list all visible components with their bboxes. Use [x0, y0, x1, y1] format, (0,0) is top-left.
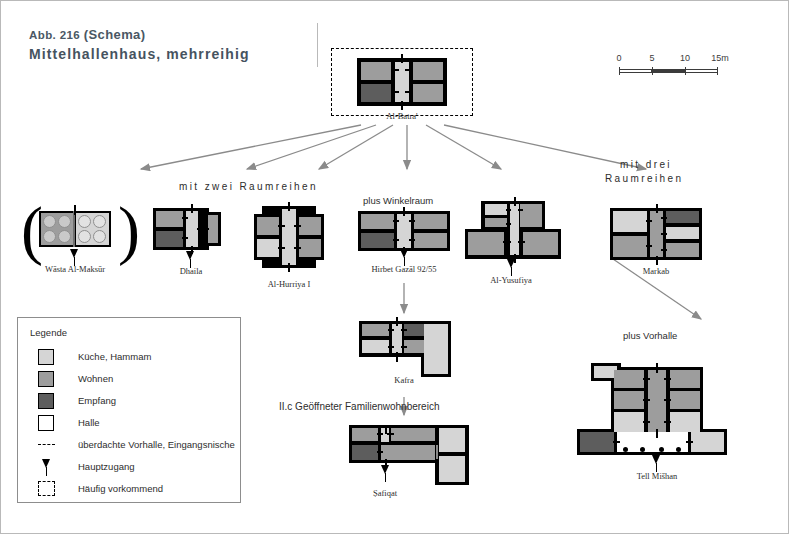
- plan-al-batra: [357, 58, 447, 106]
- plan-label-markab: Markab: [643, 266, 669, 276]
- scale-tick-3: 15m: [711, 53, 729, 63]
- title-divider: [317, 23, 318, 67]
- figure-page: Abb. 216 (Schema) Mittelhallenhaus, mehr…: [0, 0, 789, 534]
- paren-close: ): [118, 197, 140, 263]
- plan-label-yusufiya: Al-Yusufiya: [490, 275, 532, 285]
- plan-markab: [610, 208, 702, 260]
- scale-tick-2: 10: [680, 53, 690, 63]
- group-label-three-rows-1: mit drei: [620, 159, 672, 170]
- legend-label-kueche: Küche, Hammam: [78, 351, 151, 362]
- scale-tick-1: 5: [649, 53, 654, 63]
- page-title: Mittelhallenhaus, mehrreihig: [29, 46, 314, 62]
- plan-safiqat: [349, 425, 469, 485]
- plan-dhaila: [153, 208, 221, 250]
- legend-label-hauptzugang: Hauptzugang: [78, 461, 135, 472]
- plan-label-kafra: Kafra: [394, 375, 413, 385]
- legend-swatch-empfang: [38, 393, 54, 409]
- label-plus-vorhalle: plus Vorhalle: [623, 330, 677, 341]
- plan-kafra: [359, 317, 451, 373]
- label-plus-winkelraum: plus Winkelraum: [363, 195, 433, 206]
- plan-tell-mishan: [577, 363, 727, 455]
- scale-tick-0: 0: [616, 53, 621, 63]
- legend-swatch-halle: [38, 415, 54, 431]
- dashed-line-icon: [38, 444, 55, 445]
- scale-bar: 0 5 10 15m: [619, 53, 729, 76]
- legend-swatch-wohnen: [38, 371, 54, 387]
- plan-label-al-batra: Al-Batra': [386, 111, 417, 121]
- figure-number-line: Abb. 216 (Schema): [29, 27, 314, 42]
- plan-label-mishan: Tell Mišhan: [637, 471, 678, 481]
- group-label-three-rows-2: Raumreihen: [605, 173, 683, 184]
- plan-al-yusufiya: [465, 201, 561, 259]
- legend-title: Legende: [30, 327, 67, 338]
- figure-title-block: Abb. 216 (Schema) Mittelhallenhaus, mehr…: [29, 27, 314, 62]
- plan-label-dhaila: Dhaila: [180, 266, 203, 276]
- plan-hirbet-gazal: [358, 211, 450, 251]
- legend-panel: Legende Küche, Hammam Wohnen Empfang Hal…: [17, 317, 241, 503]
- dashed-frame-icon: [38, 481, 55, 496]
- figure-number: Abb. 216: [29, 29, 80, 41]
- plan-label-safiqat: Ṣafiqat: [373, 488, 397, 498]
- plan-label-wasta: Wāsta Al-Maksūr: [45, 264, 105, 274]
- group-label-two-rows: mit zwei Raumreihen: [179, 181, 318, 192]
- plan-al-hurriya-i: [254, 206, 324, 268]
- legend-label-wohnen: Wohnen: [78, 373, 113, 384]
- plan-label-gazal: Hirbet Gazāl 92/55: [371, 264, 436, 274]
- legend-swatch-kueche: [38, 349, 54, 365]
- plan-wasta-al-maksur: [39, 211, 111, 247]
- figure-schema-word: (Schema): [84, 27, 146, 42]
- legend-label-haeufig: Häufig vorkommend: [78, 483, 163, 494]
- legend-label-halle: Halle: [78, 417, 100, 428]
- plan-label-hurriya: Al-Hurriya I: [268, 279, 311, 289]
- scale-bar-graphic: [619, 67, 729, 76]
- legend-label-empfang: Empfang: [78, 395, 116, 406]
- section-caption: II.c Geöffneter Familienwohnbereich: [279, 401, 439, 412]
- legend-label-vorhalle: überdachte Vorhalle, Eingangsnische: [78, 439, 235, 450]
